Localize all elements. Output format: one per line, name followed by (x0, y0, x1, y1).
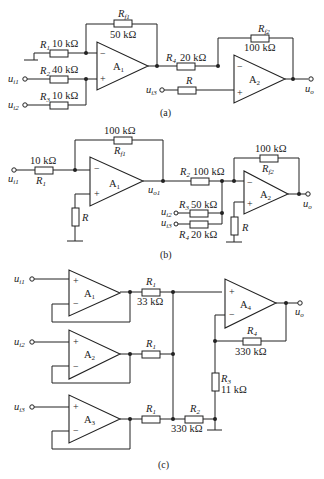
circuit-diagram: Rf1 50 kΩ R1 10 kΩ R2 40 kΩ ui1 R3 10 kΩ… (0, 0, 324, 479)
terminal-ui2 (23, 103, 27, 107)
value-r1-b: 10 kΩ (30, 155, 56, 166)
label-r2-c: R2 (189, 403, 200, 416)
value-r4-c: 330 kΩ (235, 346, 267, 357)
svg-text:+: + (94, 188, 100, 199)
terminal-uo-b (306, 192, 310, 196)
label-ui1-b: ui1 (8, 173, 19, 186)
resistor-rf2-b (260, 155, 278, 162)
label-r4: R4 (165, 52, 176, 65)
value-r4-b: 20 kΩ (191, 229, 217, 240)
label-ui1: ui1 (8, 73, 19, 86)
label-r-b2: R (241, 222, 249, 233)
resistor-r2 (50, 76, 68, 83)
label-r: R (185, 75, 193, 86)
label-rf2: Rf2 (257, 23, 270, 36)
resistor-r4 (177, 63, 195, 70)
svg-text:+: + (100, 73, 106, 84)
label-r3-b: R3 (178, 199, 189, 212)
label-ui2: ui2 (8, 99, 19, 112)
circuit-c: ui1 + − A1 R1 33 kΩ ui2 + − A2 R1 ui3 + … (14, 270, 304, 471)
terminal-ui3 (160, 88, 164, 92)
value-rf1-b: 100 kΩ (104, 125, 136, 136)
terminal-ui2-c (30, 340, 34, 344)
value-rf2-b: 100 kΩ (255, 143, 287, 154)
terminal-uo-c (298, 301, 302, 305)
label-r2-b: R2 (179, 166, 190, 179)
svg-text:+: + (247, 198, 253, 209)
resistor-r-b1 (72, 208, 79, 226)
svg-text:−: − (94, 163, 100, 174)
value-r2: 40 kΩ (52, 64, 78, 75)
label-r3: R3 (39, 91, 50, 104)
svg-text:+: + (73, 401, 79, 412)
svg-text:+: + (237, 87, 243, 98)
svg-text:+: + (73, 275, 79, 286)
resistor-rf2 (251, 35, 269, 42)
label-uo-b: uo (303, 198, 312, 211)
value-r2-c: 330 kΩ (171, 423, 203, 434)
label-ui2-c: ui2 (14, 336, 25, 349)
caption-c: (c) (158, 459, 169, 471)
resistor-r1 (50, 50, 68, 57)
svg-text:−: − (73, 361, 79, 372)
resistor-r4-b (190, 221, 208, 228)
caption-a: (a) (160, 107, 171, 119)
resistor-r2-b (191, 178, 209, 185)
svg-text:+: + (229, 286, 235, 297)
resistor-r1-c1 (142, 289, 160, 296)
caption-b: (b) (160, 249, 172, 261)
label-rf1: Rf1 (117, 8, 130, 21)
value-r2-b: 100 kΩ (193, 166, 225, 177)
label-r4-c: R4 (246, 325, 257, 338)
label-rf1-b: Rf1 (113, 145, 126, 158)
label-r1-c3: R1 (145, 403, 156, 416)
label-ui3: ui3 (146, 84, 157, 97)
label-uo-c: uo (295, 306, 304, 319)
resistor-r (178, 87, 196, 94)
svg-text:+: + (73, 336, 79, 347)
resistor-r3 (50, 102, 68, 109)
svg-text:−: − (73, 298, 79, 309)
value-r3-c: 11 kΩ (221, 384, 247, 395)
resistor-rf1 (114, 20, 132, 27)
resistor-r2-c (185, 416, 203, 423)
circuit-a: Rf1 50 kΩ R1 10 kΩ R2 40 kΩ ui1 R3 10 kΩ… (8, 8, 314, 119)
value-r1: 10 kΩ (52, 38, 78, 49)
terminal-ui1-b (12, 168, 16, 172)
value-rf1: 50 kΩ (110, 29, 136, 40)
label-uo1: uo1 (148, 184, 160, 197)
svg-text:−: − (100, 48, 106, 59)
label-ui1-c: ui1 (14, 273, 25, 286)
resistor-r4-c (243, 338, 261, 345)
value-r3-b: 50 kΩ (191, 199, 217, 210)
label-r-b1: R (81, 212, 89, 223)
terminal-ui1 (23, 77, 27, 81)
svg-text:−: − (247, 177, 253, 188)
label-r1-c1: R1 (145, 276, 156, 289)
resistor-r3-c (212, 373, 219, 391)
label-r2: R2 (39, 65, 50, 78)
value-r4: 20 kΩ (180, 52, 206, 63)
resistor-r1-b (35, 167, 53, 174)
value-r3: 10 kΩ (52, 90, 78, 101)
label-ui3-c: ui3 (14, 401, 25, 414)
resistor-r-b2 (231, 217, 238, 235)
resistor-rf1-b (114, 137, 132, 144)
label-r1-c2: R1 (145, 338, 156, 351)
svg-text:−: − (237, 61, 243, 72)
terminal-ui1-c (30, 277, 34, 281)
label-uo: uo (305, 83, 314, 96)
value-rf2: 100 kΩ (244, 42, 276, 53)
label-rf2-b: Rf2 (261, 163, 274, 176)
label-r1: R1 (39, 39, 50, 52)
value-r1-c: 33 kΩ (137, 296, 163, 307)
terminal-ui3-c (30, 405, 34, 409)
label-r1-b: R1 (35, 175, 46, 188)
svg-text:−: − (73, 425, 79, 436)
label-r4-b: R4 (178, 229, 189, 242)
svg-text:−: − (229, 309, 235, 320)
resistor-r1-c3 (142, 416, 160, 423)
resistor-r3-b (190, 210, 208, 217)
terminal-uo (309, 77, 313, 81)
resistor-r1-c2 (142, 351, 160, 358)
